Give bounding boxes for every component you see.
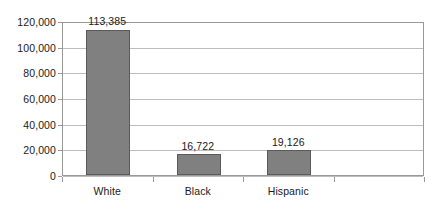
y-axis-tick-label: 120,000	[0, 17, 56, 28]
y-axis-tick-label: 0	[0, 171, 56, 182]
x-axis-tick-mark	[424, 177, 425, 182]
x-axis-tick-mark	[334, 177, 335, 182]
plot-area	[62, 22, 424, 176]
x-axis-tick-mark	[243, 177, 244, 182]
bar-value-label: 113,385	[88, 16, 126, 27]
x-axis-tick-mark	[62, 177, 63, 182]
bar	[86, 30, 130, 176]
x-axis-category-label: Black	[185, 186, 211, 197]
bar-value-label: 19,126	[272, 137, 305, 148]
x-axis-tick-mark	[153, 177, 154, 182]
bar-value-label: 16,722	[181, 141, 214, 152]
y-axis-tick-label: 80,000	[0, 68, 56, 79]
y-axis-tick-label: 20,000	[0, 145, 56, 156]
x-axis-category-label: White	[94, 186, 121, 197]
y-axis-tick-label: 100,000	[0, 42, 56, 53]
y-axis-tick-label: 60,000	[0, 94, 56, 105]
bar	[177, 154, 221, 175]
y-axis-tick-label: 40,000	[0, 119, 56, 130]
x-axis-category-label: Hispanic	[268, 186, 309, 197]
bar-chart: 020,00040,00060,00080,000100,000120,000 …	[0, 0, 439, 212]
bar	[267, 150, 311, 175]
